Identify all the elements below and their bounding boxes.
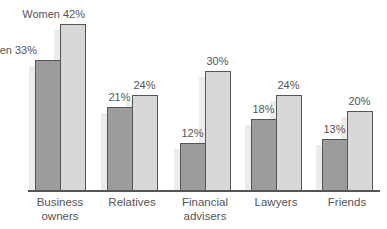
bar-men <box>35 60 61 190</box>
category-label: Lawyers <box>240 195 312 209</box>
x-axis-line <box>28 190 380 192</box>
category-label: Financialadvisers <box>169 195 241 223</box>
category-label: Friends <box>311 195 383 209</box>
bar-men <box>180 143 206 190</box>
bar-men <box>107 107 133 190</box>
bar-women <box>276 95 302 190</box>
data-label: 20% <box>343 95 376 107</box>
data-label: 24% <box>128 79 161 91</box>
category-label: Businessowners <box>24 195 96 223</box>
bar-women <box>205 71 231 190</box>
bar-men <box>251 119 277 190</box>
data-label: Men 33% <box>0 44 37 56</box>
category-label: Relatives <box>96 195 168 209</box>
bar-women <box>132 95 158 190</box>
bar-men <box>322 139 348 190</box>
bar-women <box>60 24 86 190</box>
data-label: 30% <box>201 55 234 67</box>
data-label: 24% <box>272 79 305 91</box>
data-label: Women 42% <box>22 8 85 20</box>
bar-women <box>347 111 373 190</box>
bar-chart: Men 33%Women 42%Businessowners21%24%Rela… <box>0 0 387 229</box>
